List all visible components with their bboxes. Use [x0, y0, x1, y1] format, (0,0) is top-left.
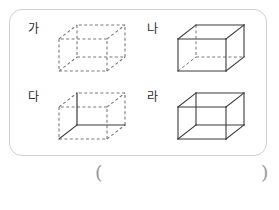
figures-panel: 가: [9, 9, 267, 156]
figure-cell-ga: 가: [22, 15, 140, 83]
cube-na-svg: [170, 17, 254, 81]
figure-label-da: 다: [28, 91, 39, 103]
cube-da: [51, 85, 135, 149]
figure-cell-da: 다: [22, 83, 140, 151]
figure-label-na: 나: [147, 23, 158, 35]
cube-da-svg: [51, 85, 135, 149]
cube-ga: [51, 17, 135, 81]
answer-open-paren: (: [95, 163, 102, 182]
answer-close-paren: ): [261, 163, 268, 182]
answer-row: ( ): [9, 163, 270, 203]
cube-ra-svg: [170, 85, 254, 149]
figure-cell-na: 나: [141, 15, 259, 83]
cube-ra: [170, 85, 254, 149]
figure-label-ra: 라: [147, 91, 158, 103]
cube-ga-svg: [51, 17, 135, 81]
figure-cell-ra: 라: [141, 83, 259, 151]
worksheet-root: 가: [0, 0, 279, 210]
figure-label-ga: 가: [28, 23, 39, 35]
cube-na: [170, 17, 254, 81]
